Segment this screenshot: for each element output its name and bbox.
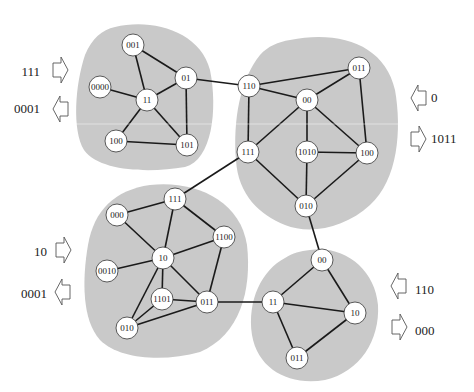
node-label: 100 xyxy=(360,148,374,158)
node-bl-10[interactable]: 10 xyxy=(152,247,174,269)
node-label: 1101 xyxy=(153,294,171,304)
node-label: 000 xyxy=(110,210,124,220)
node-label: 1100 xyxy=(215,232,233,242)
node-label: 010 xyxy=(299,201,313,211)
node-tr-100[interactable]: 100 xyxy=(356,142,378,164)
node-bl-1100[interactable]: 1100 xyxy=(213,226,235,248)
node-tr-111[interactable]: 111 xyxy=(237,141,259,163)
node-label: 0000 xyxy=(91,82,110,92)
arrow-right-icon xyxy=(411,126,426,152)
arrow-right-icon xyxy=(53,57,68,83)
clustered-graph-diagram: 0010100001110010111001100111101010001011… xyxy=(0,0,474,392)
node-label: 00 xyxy=(318,255,328,265)
port-top-left-out: 0001 xyxy=(14,96,68,122)
node-bl-010[interactable]: 010 xyxy=(116,317,138,339)
node-tl-11[interactable]: 11 xyxy=(136,89,158,111)
arrow-left-icon xyxy=(55,279,70,305)
port-label: 10 xyxy=(34,244,47,259)
node-label: 010 xyxy=(120,323,134,333)
node-label: 11 xyxy=(143,95,152,105)
node-label: 111 xyxy=(242,147,255,157)
node-bl-011[interactable]: 011 xyxy=(196,291,218,313)
node-bl-111[interactable]: 111 xyxy=(164,188,186,210)
port-label: 110 xyxy=(415,282,434,297)
node-label: 011 xyxy=(290,353,303,363)
port-bottom-left-out: 0001 xyxy=(21,279,70,305)
node-bl-000[interactable]: 000 xyxy=(106,204,128,226)
port-label: 000 xyxy=(415,323,435,338)
node-tl-01[interactable]: 01 xyxy=(175,67,197,89)
cluster-top-right xyxy=(235,37,398,229)
port-label: 111 xyxy=(21,64,40,79)
port-label: 0001 xyxy=(14,101,40,116)
arrow-right-icon xyxy=(56,237,71,263)
node-br-10[interactable]: 10 xyxy=(344,302,366,324)
node-label: 100 xyxy=(109,136,123,146)
arrow-right-icon xyxy=(392,314,407,340)
node-label: 11 xyxy=(269,297,278,307)
port-bottom-left-in: 10 xyxy=(34,237,71,263)
node-bl-0010[interactable]: 0010 xyxy=(96,260,118,282)
node-tr-010[interactable]: 010 xyxy=(295,195,317,217)
node-tr-00[interactable]: 00 xyxy=(296,89,318,111)
node-br-00[interactable]: 00 xyxy=(311,249,333,271)
port-label: 0 xyxy=(431,90,438,105)
node-label: 01 xyxy=(182,73,191,83)
arrow-left-icon xyxy=(391,273,406,299)
node-label: 00 xyxy=(303,95,313,105)
node-br-011[interactable]: 011 xyxy=(286,347,308,369)
port-top-right-in: 1011 xyxy=(411,126,457,152)
port-top-right-out: 0 xyxy=(411,85,438,111)
node-label: 101 xyxy=(180,140,194,150)
arrow-left-icon xyxy=(411,85,426,111)
port-bottom-right-out: 110 xyxy=(391,273,434,299)
node-label: 011 xyxy=(352,63,365,73)
node-tr-011[interactable]: 011 xyxy=(348,57,370,79)
node-tl-0000[interactable]: 0000 xyxy=(89,76,111,98)
port-label: 0001 xyxy=(21,286,47,301)
port-top-left-in: 111 xyxy=(21,57,68,83)
port-bottom-right-in: 000 xyxy=(392,314,435,340)
arrow-left-icon xyxy=(53,96,68,122)
node-tl-001[interactable]: 001 xyxy=(122,34,144,56)
node-bl-1101[interactable]: 1101 xyxy=(151,288,173,310)
node-label: 001 xyxy=(126,40,140,50)
node-label: 0010 xyxy=(98,266,117,276)
node-label: 10 xyxy=(351,308,361,318)
node-tl-101[interactable]: 101 xyxy=(176,134,198,156)
node-label: 111 xyxy=(169,194,182,204)
node-label: 110 xyxy=(242,81,256,91)
node-br-11[interactable]: 11 xyxy=(262,291,284,313)
node-tl-100[interactable]: 100 xyxy=(105,130,127,152)
node-tr-1010[interactable]: 1010 xyxy=(296,141,318,163)
diagram-svg: 0010100001110010111001100111101010001011… xyxy=(0,0,474,392)
node-label: 011 xyxy=(200,297,213,307)
port-label: 1011 xyxy=(431,131,457,146)
node-tr-110[interactable]: 110 xyxy=(238,75,260,97)
node-label: 10 xyxy=(159,253,169,263)
node-label: 1010 xyxy=(298,147,317,157)
